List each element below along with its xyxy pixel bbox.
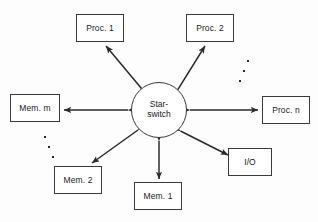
node-io: I/O (228, 148, 272, 176)
node-mem-2: Mem. 2 (54, 166, 102, 194)
node-label-proc-n: Proc. n (272, 105, 300, 115)
ellipsis-processors-dot-1 (247, 60, 249, 62)
hub-label-line-2: switch (147, 110, 171, 120)
star-switch-diagram: Star- switch Proc. 1 Proc. 2 Proc. n I/O… (0, 0, 318, 222)
ellipsis-memories-dot-2 (48, 146, 50, 148)
connector-hub-to-io (181, 131, 229, 155)
node-label-proc-1: Proc. 1 (86, 23, 114, 33)
connector-hub-to-mem-2 (92, 130, 138, 163)
node-proc-n: Proc. n (262, 96, 310, 124)
node-label-mem-1: Mem. 1 (144, 191, 173, 201)
ellipsis-processors-dot-3 (239, 80, 241, 82)
star-switch-hub: Star- switch (131, 82, 187, 138)
node-label-proc-2: Proc. 2 (196, 23, 224, 33)
node-mem-1: Mem. 1 (134, 182, 182, 210)
node-proc-2: Proc. 2 (186, 14, 234, 42)
node-proc-1: Proc. 1 (76, 14, 124, 42)
node-label-io: I/O (244, 157, 256, 167)
node-label-mem-2: Mem. 2 (64, 175, 93, 185)
node-mem-m: Mem. m (10, 94, 60, 122)
connector-hub-to-proc-2 (178, 46, 205, 90)
ellipsis-memories-dot-1 (44, 136, 46, 138)
node-label-mem-m: Mem. m (19, 103, 50, 113)
ellipsis-memories-dot-3 (52, 156, 54, 158)
connector-hub-to-proc-1 (106, 46, 142, 88)
ellipsis-processors-dot-2 (243, 70, 245, 72)
